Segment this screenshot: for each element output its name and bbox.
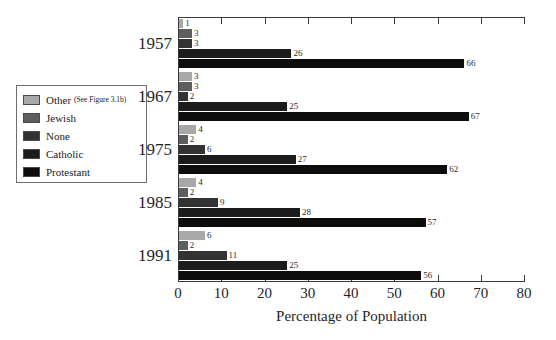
- bar-row: 25: [179, 102, 525, 111]
- x-tick-label-30: 30: [300, 285, 315, 301]
- legend-swatch-catholic: [23, 149, 40, 159]
- bar-protestant-1957: [179, 59, 464, 68]
- category-axis-labels: 19571967197519851991: [128, 17, 172, 282]
- bar-value-label: 1: [185, 18, 190, 28]
- bar-row: 4: [179, 125, 525, 134]
- bar-catholic-1991: [179, 261, 287, 270]
- bar-value-label: 2: [190, 134, 195, 144]
- year-label-1975: 1975: [128, 141, 172, 158]
- bar-jewish-1985: [179, 188, 188, 197]
- legend-swatch-protestant: [23, 167, 40, 177]
- legend-label-catholic: Catholic: [46, 149, 83, 160]
- bar-none-1991: [179, 251, 227, 260]
- year-label-1991: 1991: [128, 247, 172, 264]
- bar-row: 3: [179, 82, 525, 91]
- bar-value-label: 3: [194, 28, 199, 38]
- x-tick-label-0: 0: [174, 285, 182, 301]
- bar-row: 56: [179, 271, 525, 280]
- bar-row: 66: [179, 59, 525, 68]
- bar-catholic-1975: [179, 155, 296, 164]
- bar-row: 67: [179, 112, 525, 121]
- bar-value-label: 2: [190, 91, 195, 101]
- legend-label-other: Other: [46, 95, 71, 106]
- year-label-1967: 1967: [128, 88, 172, 105]
- year-label-1985: 1985: [128, 194, 172, 211]
- x-tick-label-50: 50: [387, 285, 402, 301]
- bar-value-label: 3: [194, 81, 199, 91]
- bar-value-label: 9: [220, 197, 225, 207]
- bar-none-1985: [179, 198, 218, 207]
- legend-swatch-none: [23, 131, 40, 141]
- plot-area: 133266633225674262762429285762112556: [178, 17, 525, 282]
- bar-value-label: 6: [207, 144, 212, 154]
- bar-value-label: 28: [302, 207, 311, 217]
- bar-value-label: 26: [293, 48, 302, 58]
- bar-value-label: 56: [423, 270, 432, 280]
- bar-row: 26: [179, 49, 525, 58]
- bar-jewish-1975: [179, 135, 188, 144]
- x-tick-label-20: 20: [257, 285, 272, 301]
- bar-row: 27: [179, 155, 525, 164]
- bar-row: 2: [179, 241, 525, 250]
- bar-value-label: 4: [198, 177, 203, 187]
- bar-other-1991: [179, 231, 205, 240]
- legend-swatch-jewish: [23, 113, 40, 123]
- bar-row: 3: [179, 72, 525, 81]
- legend-label-none: None: [46, 131, 70, 142]
- bar-jewish-1991: [179, 241, 188, 250]
- bar-row: 6: [179, 145, 525, 154]
- bar-row: 6: [179, 231, 525, 240]
- bar-value-label: 3: [194, 38, 199, 48]
- bar-none-1967: [179, 92, 188, 101]
- x-axis-title: Percentage of Population: [178, 308, 525, 325]
- bar-group-1957: 1332666: [179, 19, 525, 69]
- bar-row: 57: [179, 218, 525, 227]
- bar-row: 25: [179, 261, 525, 270]
- bar-other-1975: [179, 125, 196, 134]
- x-tick-label-70: 70: [473, 285, 488, 301]
- bar-row: 3: [179, 39, 525, 48]
- bar-group-1967: 3322567: [179, 72, 525, 122]
- bar-row: 62: [179, 165, 525, 174]
- bar-value-label: 2: [190, 240, 195, 250]
- bar-catholic-1957: [179, 49, 291, 58]
- bar-value-label: 25: [289, 260, 298, 270]
- bar-value-label: 62: [449, 164, 458, 174]
- bar-row: 1: [179, 19, 525, 28]
- bar-value-label: 3: [194, 71, 199, 81]
- bar-protestant-1991: [179, 271, 421, 280]
- bar-value-label: 11: [229, 250, 238, 260]
- year-label-1957: 1957: [128, 35, 172, 52]
- x-axis-tick-labels: 01020304050607080: [178, 285, 525, 305]
- legend-swatch-other: [23, 95, 40, 105]
- bar-row: 2: [179, 92, 525, 101]
- bar-row: 2: [179, 135, 525, 144]
- bar-jewish-1957: [179, 29, 192, 38]
- axis-line-bottom: [178, 281, 525, 282]
- bar-group-1985: 4292857: [179, 178, 525, 228]
- bar-value-label: 57: [428, 217, 437, 227]
- bar-row: 11: [179, 251, 525, 260]
- bar-row: 9: [179, 198, 525, 207]
- x-tick-label-40: 40: [344, 285, 359, 301]
- bar-other-1967: [179, 72, 192, 81]
- legend-note-other: (See Figure 3.1b): [74, 96, 126, 104]
- bar-value-label: 4: [198, 124, 203, 134]
- bar-group-1975: 4262762: [179, 125, 525, 175]
- bar-row: 4: [179, 178, 525, 187]
- bar-group-1991: 62112556: [179, 231, 525, 281]
- bar-row: 2: [179, 188, 525, 197]
- bar-row: 28: [179, 208, 525, 217]
- bar-catholic-1967: [179, 102, 287, 111]
- bar-none-1975: [179, 145, 205, 154]
- bar-value-label: 27: [298, 154, 307, 164]
- bar-value-label: 66: [466, 58, 475, 68]
- bar-other-1957: [179, 19, 183, 28]
- bar-other-1985: [179, 178, 196, 187]
- legend-label-jewish: Jewish: [46, 113, 76, 124]
- x-tick-label-10: 10: [214, 285, 229, 301]
- bar-catholic-1985: [179, 208, 300, 217]
- bar-row: 3: [179, 29, 525, 38]
- bar-protestant-1967: [179, 112, 469, 121]
- bar-value-label: 25: [289, 101, 298, 111]
